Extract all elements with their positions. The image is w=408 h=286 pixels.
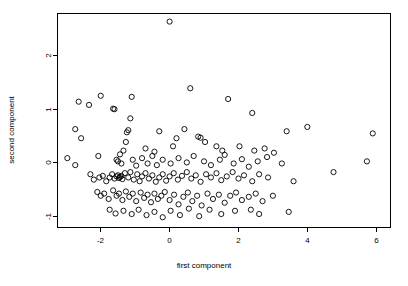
y-tick-label: 0 xyxy=(44,160,53,165)
x-tick-label: -2 xyxy=(97,236,105,245)
y-axis-title: second component xyxy=(7,95,16,163)
y-tick-label: 2 xyxy=(44,53,53,58)
x-axis-title: first component xyxy=(177,261,232,270)
plot-canvas: -20246 -1012 first component second comp… xyxy=(0,0,408,286)
x-tick-label: 2 xyxy=(236,236,241,245)
scatter-plot-figure: -20246 -1012 first component second comp… xyxy=(0,0,408,286)
y-tick-label: -1 xyxy=(44,212,53,220)
x-tick-label: 6 xyxy=(374,236,379,245)
plot-background xyxy=(0,0,408,286)
y-tick-label: 1 xyxy=(44,107,53,112)
x-tick-label: 4 xyxy=(305,236,310,245)
x-tick-label: 0 xyxy=(167,236,172,245)
